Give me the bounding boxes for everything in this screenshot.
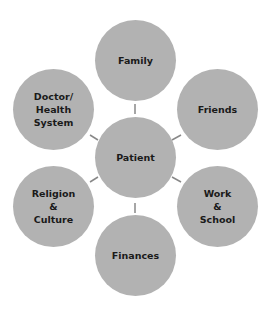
node-label: Friends <box>198 103 237 116</box>
connector-friends <box>172 135 181 140</box>
center-label: Patient <box>116 151 155 164</box>
node-religion-culture: Religion & Culture <box>13 166 94 247</box>
node-doctor-health-system: Doctor/ Health System <box>13 69 94 150</box>
node-patient-center: Patient <box>95 117 176 198</box>
node-label: Religion & Culture <box>32 187 76 226</box>
connector-work <box>172 177 181 182</box>
node-label: Finances <box>112 249 159 262</box>
node-work-school: Work & School <box>177 166 258 247</box>
node-label: Doctor/ Health System <box>34 90 74 129</box>
node-family: Family <box>95 20 176 101</box>
connector-religion <box>90 177 98 182</box>
node-finances: Finances <box>95 215 176 296</box>
connector-doctor <box>90 135 98 140</box>
node-friends: Friends <box>177 69 258 150</box>
node-label: Family <box>118 54 153 67</box>
node-label: Work & School <box>200 187 236 226</box>
